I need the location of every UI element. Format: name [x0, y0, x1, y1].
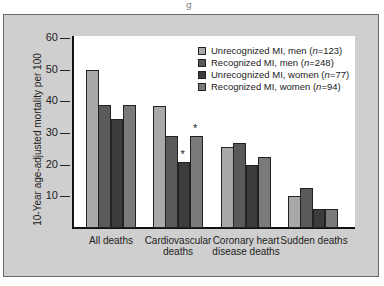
x-label-line: Sudden deaths	[278, 235, 350, 246]
y-tick	[60, 165, 70, 166]
legend-count: =77)	[330, 69, 349, 81]
bar	[165, 136, 178, 228]
legend-swatch-icon	[198, 59, 206, 67]
legend-item: Unrecognized MI, women (n=77)	[198, 69, 349, 81]
x-label-coronary: Coronary heart disease deaths	[208, 235, 284, 257]
y-tick	[60, 196, 70, 197]
x-label-line: All deaths	[78, 235, 144, 246]
bar	[325, 209, 338, 228]
legend-item: Recognized MI, men (n=248)	[198, 57, 349, 69]
bar	[190, 136, 203, 228]
legend-label: Recognized MI, women (	[211, 81, 316, 93]
legend-count: =94)	[321, 81, 340, 93]
legend-item: Recognized MI, women (n=94)	[198, 81, 349, 93]
legend: Unrecognized MI, men (n=123) Recognized …	[198, 45, 349, 93]
bar	[221, 147, 234, 228]
page-fragment-text: g	[186, 0, 192, 10]
x-label-line: deaths	[140, 246, 216, 257]
legend-label: Unrecognized MI, men (	[211, 45, 312, 57]
bar	[300, 188, 313, 228]
bar	[246, 165, 259, 228]
legend-item: Unrecognized MI, men (n=123)	[198, 45, 349, 57]
y-tick-label: 60	[38, 31, 58, 43]
bar	[123, 105, 136, 229]
bar	[111, 119, 124, 228]
bar	[288, 196, 301, 228]
y-tick-label: 50	[38, 63, 58, 75]
significance-marker: *	[193, 122, 197, 134]
bar	[233, 143, 246, 229]
x-label-line: Coronary heart	[208, 235, 284, 246]
y-tick-label: 30	[38, 126, 58, 138]
y-tick	[60, 70, 70, 71]
x-label-sudden: Sudden deaths	[278, 235, 350, 246]
legend-label: Recognized MI, men (	[211, 57, 304, 69]
y-tick-label: 40	[38, 94, 58, 106]
bar	[153, 106, 166, 228]
x-label-line: disease deaths	[208, 246, 284, 257]
significance-marker: *	[181, 148, 185, 160]
y-tick	[60, 101, 70, 102]
legend-count: =123)	[318, 45, 343, 57]
legend-swatch-icon	[198, 83, 206, 91]
y-tick-label: 20	[38, 158, 58, 170]
legend-label: Unrecognized MI, women (	[211, 69, 325, 81]
legend-swatch-icon	[198, 71, 206, 79]
y-tick	[60, 38, 70, 39]
legend-swatch-icon	[198, 47, 206, 55]
bar	[178, 162, 191, 229]
bar	[313, 209, 326, 228]
bar	[98, 105, 111, 229]
legend-count: =248)	[309, 57, 334, 69]
y-tick	[60, 133, 70, 134]
y-tick-label: 10	[38, 189, 58, 201]
bar	[86, 70, 99, 228]
x-label-all-deaths: All deaths	[78, 235, 144, 246]
x-label-line: Cardiovascular	[140, 235, 216, 246]
x-label-cardiovascular: Cardiovascular deaths	[140, 235, 216, 257]
bar	[258, 157, 271, 228]
